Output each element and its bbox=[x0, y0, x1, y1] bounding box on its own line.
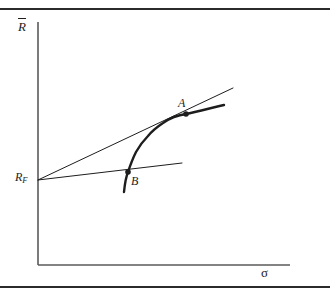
x-axis-label: σ bbox=[261, 266, 268, 279]
risk-free-rate-label-subscript: F bbox=[22, 175, 27, 185]
overbar-accent bbox=[18, 18, 26, 19]
data-point-a-marker bbox=[183, 111, 189, 117]
tangent-line-to-b bbox=[38, 163, 182, 180]
plot-canvas bbox=[0, 0, 330, 294]
bottom-divider-rule bbox=[0, 286, 330, 288]
efficient-frontier-curve bbox=[124, 105, 224, 192]
lines-group bbox=[38, 88, 233, 180]
axes-group bbox=[38, 22, 290, 265]
tangent-line-to-a bbox=[38, 88, 233, 180]
point-label-a: A bbox=[178, 97, 185, 109]
y-axis-label-text: R bbox=[18, 19, 26, 34]
data-point-b-marker bbox=[125, 169, 131, 175]
figure-container: R σ RF A B bbox=[0, 0, 330, 294]
y-axis-label: R bbox=[18, 18, 26, 33]
risk-free-rate-label: RF bbox=[15, 171, 28, 185]
point-label-b: B bbox=[131, 175, 138, 187]
